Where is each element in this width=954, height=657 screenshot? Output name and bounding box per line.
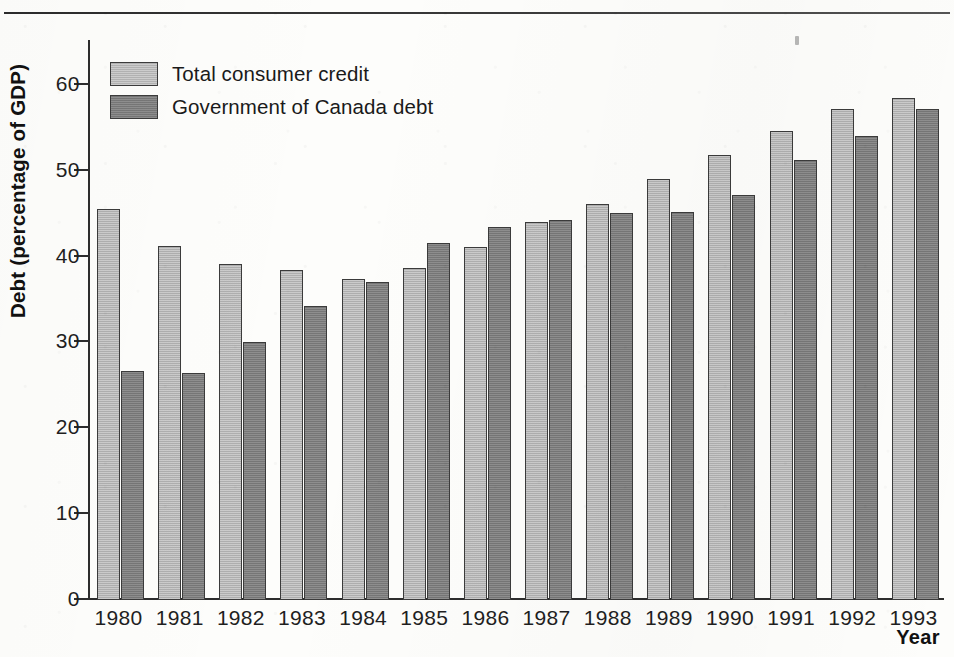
bar-group <box>885 40 946 600</box>
bar-government-debt <box>304 306 327 600</box>
bar-consumer-credit <box>403 268 426 600</box>
y-axis-tick-label: 10 <box>56 501 80 525</box>
bar-government-debt <box>610 213 633 600</box>
plot-area: 0102030405060 19801981198219831984198519… <box>88 40 950 600</box>
bar-consumer-credit <box>586 204 609 600</box>
bar-government-debt <box>488 227 511 600</box>
bar-group <box>701 40 762 600</box>
bar-consumer-credit <box>831 109 854 600</box>
y-axis-tick-label: 50 <box>56 158 80 182</box>
x-axis-tick-label: 1985 <box>394 606 455 630</box>
y-axis-tick-label: 30 <box>56 329 80 353</box>
bar-consumer-credit <box>158 246 181 600</box>
x-axis-tick-label: 1990 <box>699 606 760 630</box>
legend-item-label: Total consumer credit <box>172 62 369 86</box>
x-axis-tick-label: 1980 <box>88 606 149 630</box>
bar-consumer-credit <box>525 222 548 600</box>
bar-group <box>824 40 885 600</box>
light-gray-swatch <box>110 62 158 86</box>
bar-group <box>763 40 824 600</box>
x-axis-tick-label: 1987 <box>516 606 577 630</box>
bar-group <box>457 40 518 600</box>
y-axis-tick-label: 40 <box>56 244 80 268</box>
y-axis-tick-label: 0 <box>68 587 80 611</box>
bar-consumer-credit <box>97 209 120 600</box>
x-axis-tick-label: 1981 <box>149 606 210 630</box>
bar-group <box>579 40 640 600</box>
y-axis-tick-label: 60 <box>56 72 80 96</box>
chart-legend: Total consumer creditGovernment of Canad… <box>110 62 433 128</box>
bar-group <box>518 40 579 600</box>
bar-government-debt <box>366 282 389 600</box>
bar-chart-figure: Debt (percentage of GDP) 0102030405060 1… <box>0 0 954 657</box>
x-axis-tick-label: 1982 <box>210 606 271 630</box>
bar-government-debt <box>243 342 266 600</box>
y-axis-title: Debt (percentage of GDP) <box>6 64 30 318</box>
bar-government-debt <box>794 160 817 600</box>
x-axis-tick-label: 1991 <box>761 606 822 630</box>
bar-consumer-credit <box>280 270 303 601</box>
y-axis-tick-label: 20 <box>56 415 80 439</box>
x-axis-tick-label: 1988 <box>577 606 638 630</box>
bar-consumer-credit <box>770 131 793 600</box>
bar-government-debt <box>182 373 205 600</box>
bar-consumer-credit <box>708 155 731 600</box>
bar-consumer-credit <box>892 98 915 600</box>
bar-government-debt <box>855 136 878 600</box>
scan-speck-artifact <box>795 36 799 45</box>
x-axis-tick-label: 1984 <box>333 606 394 630</box>
bar-government-debt <box>549 220 572 600</box>
x-axis-tick-label: 1989 <box>638 606 699 630</box>
x-axis-tick-label: 1986 <box>455 606 516 630</box>
dark-gray-swatch <box>110 95 158 119</box>
legend-item-label: Government of Canada debt <box>172 95 433 119</box>
x-axis-title: Year <box>896 626 940 649</box>
bar-government-debt <box>671 212 694 600</box>
legend-item: Total consumer credit <box>110 62 433 86</box>
x-axis-tick-label: 1983 <box>271 606 332 630</box>
bar-government-debt <box>427 243 450 600</box>
bar-government-debt <box>916 109 939 600</box>
bar-group <box>640 40 701 600</box>
bar-government-debt <box>732 195 755 600</box>
x-axis-tick-label: 1992 <box>822 606 883 630</box>
legend-item: Government of Canada debt <box>110 95 433 119</box>
bar-government-debt <box>121 371 144 600</box>
bar-consumer-credit <box>219 264 242 600</box>
bar-consumer-credit <box>342 279 365 600</box>
bar-consumer-credit <box>464 247 487 600</box>
bar-consumer-credit <box>647 179 670 601</box>
